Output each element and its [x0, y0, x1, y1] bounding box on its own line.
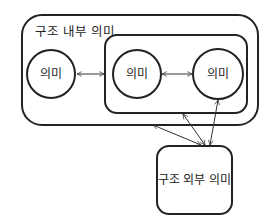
outer-box-label: 구조 내부 의미	[35, 24, 115, 39]
arrow-outer-box-to-external	[153, 125, 201, 145]
arrow-inner-box-to-external	[183, 114, 205, 145]
diagram-canvas: 구조 내부 의미 의미 의미 의미 구조 외부 의미	[0, 0, 276, 223]
node-right: 의미	[193, 49, 243, 99]
node-left: 의미	[27, 50, 75, 98]
node-middle-label: 의미	[126, 67, 148, 81]
external-box-label: 구조 외부 의미	[158, 173, 232, 187]
node-middle: 의미	[113, 50, 161, 98]
node-right-label: 의미	[207, 67, 229, 81]
external-box-structure-external: 구조 외부 의미	[157, 146, 232, 214]
arrow-right-to-external	[210, 100, 218, 145]
node-left-label: 의미	[40, 67, 62, 81]
